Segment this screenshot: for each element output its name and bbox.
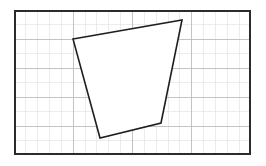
figure-canvas: [0, 0, 266, 166]
geometry-figure: [0, 0, 266, 166]
